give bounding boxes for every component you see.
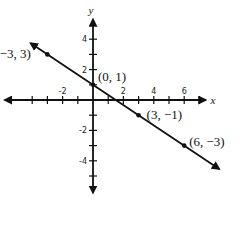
x-axis-label: x: [210, 94, 216, 106]
point-label: (6, −3): [189, 134, 225, 149]
data-point: [182, 143, 187, 148]
data-point: [136, 113, 141, 118]
coordinate-plane: xy -224642-2-4 (−3, 3)(0, 1)(3, −1)(6, −…: [0, 0, 247, 227]
y-tick-label: 2: [82, 66, 87, 75]
y-tick-label: 4: [82, 35, 87, 44]
point-label: (0, 1): [98, 69, 126, 84]
x-tick-label: 4: [151, 87, 156, 96]
point-label: (3, −1): [147, 107, 183, 122]
line-y-equals-neg-two-thirds-x-plus-1: [31, 43, 219, 169]
axis-ticks: -224642-2-4: [32, 35, 199, 176]
y-tick-label: -2: [79, 126, 87, 135]
point-label: (−3, 3): [0, 46, 31, 61]
y-axis-label: y: [88, 4, 94, 16]
data-point: [45, 52, 50, 57]
x-tick-label: 6: [182, 87, 187, 96]
plotted-line: [31, 43, 219, 169]
x-tick-label: 2: [121, 87, 126, 96]
data-point: [91, 83, 96, 88]
y-tick-label: -4: [79, 157, 87, 166]
x-tick-label: -2: [59, 87, 67, 96]
